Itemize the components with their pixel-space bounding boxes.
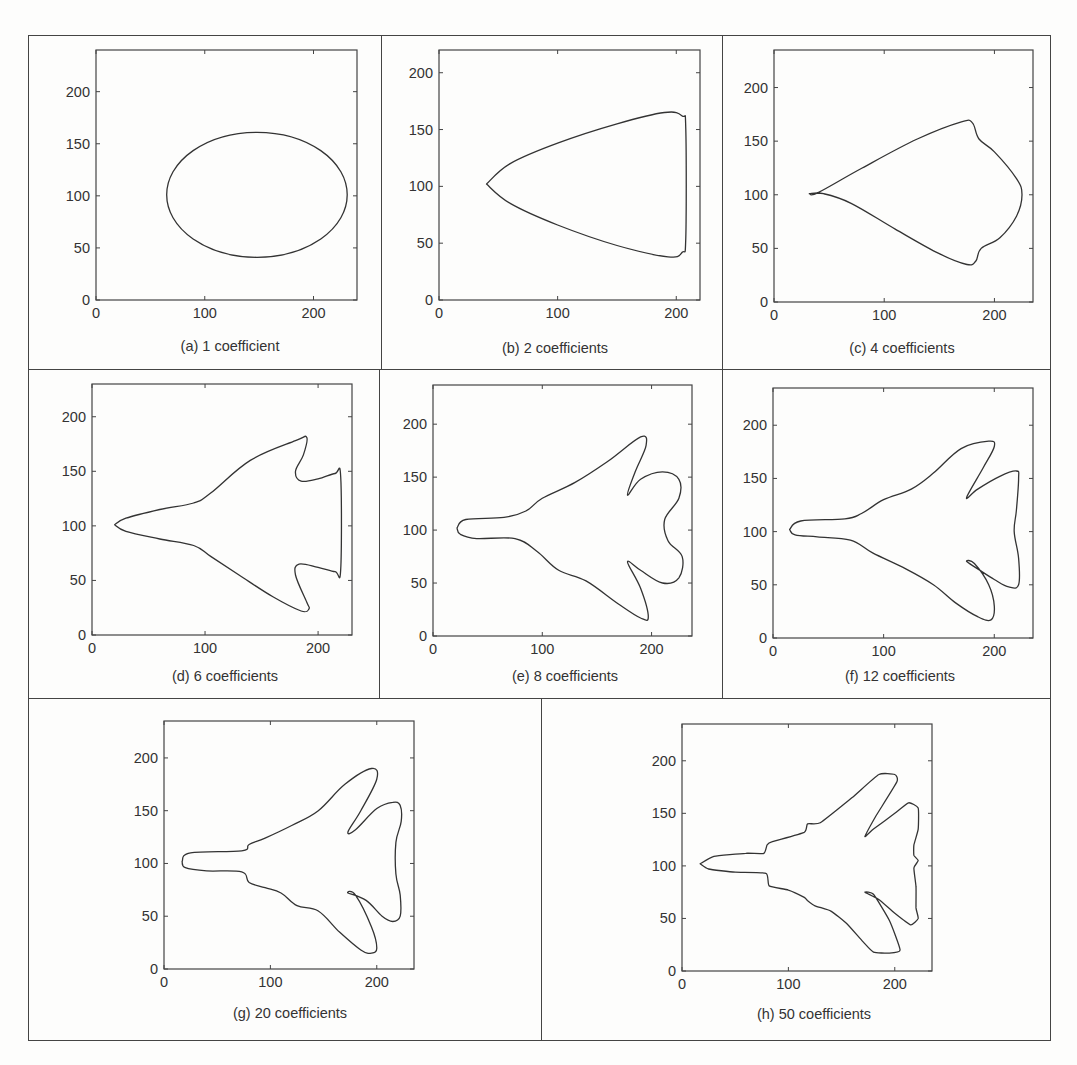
contour-aircraft [115, 436, 342, 612]
y-tick-label: 200 [66, 84, 90, 100]
y-tick-label: 100 [409, 178, 433, 194]
contour-aircraft [700, 774, 918, 954]
y-tick-label: 50 [74, 240, 90, 256]
y-tick-label: 150 [62, 463, 86, 479]
x-tick-label: 200 [982, 307, 1006, 323]
y-tick-label: 100 [66, 188, 90, 204]
y-tick-label: 150 [66, 136, 90, 152]
axes-box [774, 50, 1033, 302]
y-tick-label: 200 [62, 409, 86, 425]
col-divider-top-1 [381, 35, 382, 369]
plot-panel-f: 0100200050100150200 [773, 388, 1033, 638]
plot-panel-a: 0100200050100150200 [96, 50, 357, 300]
y-tick-label: 200 [743, 417, 767, 433]
axes-box [164, 721, 414, 969]
y-tick-label: 150 [134, 803, 158, 819]
y-tick-label: 0 [668, 963, 676, 979]
x-tick-label: 100 [530, 641, 554, 657]
x-tick-label: 100 [193, 305, 217, 321]
caption-e: (e) 8 coefficients [512, 668, 618, 684]
plot-panel-e: 0100200050100150200 [433, 385, 692, 636]
x-tick-label: 0 [92, 305, 100, 321]
x-tick-label: 100 [193, 640, 217, 656]
x-tick-label: 100 [872, 643, 896, 659]
y-tick-label: 100 [652, 858, 676, 874]
row-divider-2 [28, 698, 1051, 699]
y-tick-label: 50 [751, 577, 767, 593]
caption-h: (h) 50 coefficients [757, 1006, 871, 1022]
x-tick-label: 200 [365, 974, 389, 990]
x-tick-label: 200 [664, 305, 688, 321]
axes-box [96, 50, 357, 300]
y-tick-label: 150 [744, 133, 768, 149]
y-tick-label: 150 [403, 469, 427, 485]
col-divider-top-2 [722, 35, 723, 369]
contour-aircraft [790, 441, 1020, 621]
x-tick-label: 0 [429, 641, 437, 657]
y-tick-label: 50 [417, 235, 433, 251]
y-tick-label: 0 [150, 961, 158, 977]
plot-panel-h: 0100200050100150200 [682, 724, 932, 971]
plot-panel-g: 0100200050100150200 [164, 721, 414, 969]
caption-b: (b) 2 coefficients [502, 340, 608, 356]
x-tick-label: 200 [982, 643, 1006, 659]
caption-a: (a) 1 coefficient [181, 338, 280, 354]
plot-panel-c: 0100200050100150200 [774, 50, 1033, 302]
y-tick-label: 0 [82, 292, 90, 308]
row-divider-1 [28, 369, 1051, 370]
x-tick-label: 0 [160, 974, 168, 990]
axes-box [439, 50, 700, 300]
contour-aircraft [457, 436, 683, 620]
caption-f: (f) 12 coefficients [845, 668, 955, 684]
y-tick-label: 0 [78, 627, 86, 643]
plot-panel-b: 0100200050100150200 [439, 50, 700, 300]
contour-ellipse [167, 132, 348, 257]
y-tick-label: 150 [743, 470, 767, 486]
y-tick-label: 150 [409, 122, 433, 138]
caption-g: (g) 20 coefficients [233, 1005, 347, 1021]
y-tick-label: 100 [403, 522, 427, 538]
y-tick-label: 200 [409, 65, 433, 81]
col-divider-bottom [541, 698, 542, 1041]
x-tick-label: 100 [872, 307, 896, 323]
caption-c: (c) 4 coefficients [849, 340, 954, 356]
y-tick-label: 0 [425, 292, 433, 308]
x-tick-label: 100 [258, 974, 282, 990]
col-divider-mid-1 [379, 369, 380, 698]
x-tick-label: 100 [546, 305, 570, 321]
col-divider-mid-2 [722, 369, 723, 698]
y-tick-label: 200 [134, 750, 158, 766]
y-tick-label: 100 [744, 187, 768, 203]
y-tick-label: 50 [70, 572, 86, 588]
y-tick-label: 50 [752, 240, 768, 256]
y-tick-label: 200 [744, 80, 768, 96]
x-tick-label: 0 [769, 643, 777, 659]
y-tick-label: 50 [660, 910, 676, 926]
y-tick-label: 100 [743, 524, 767, 540]
y-tick-label: 0 [759, 630, 767, 646]
caption-d: (d) 6 coefficients [172, 668, 278, 684]
axes-box [92, 384, 352, 635]
x-tick-label: 200 [883, 976, 907, 992]
y-tick-label: 200 [403, 416, 427, 432]
y-tick-label: 100 [134, 855, 158, 871]
x-tick-label: 200 [301, 305, 325, 321]
axes-box [433, 385, 692, 636]
x-tick-label: 0 [678, 976, 686, 992]
x-tick-label: 100 [776, 976, 800, 992]
y-tick-label: 0 [760, 294, 768, 310]
plot-panel-d: 0100200050100150200 [92, 384, 352, 635]
y-tick-label: 150 [652, 805, 676, 821]
contour-aircraft [487, 112, 687, 257]
contour-aircraft [182, 768, 402, 953]
y-tick-label: 100 [62, 518, 86, 534]
y-tick-label: 50 [411, 575, 427, 591]
x-tick-label: 200 [639, 641, 663, 657]
y-tick-label: 200 [652, 753, 676, 769]
x-tick-label: 200 [306, 640, 330, 656]
x-tick-label: 0 [435, 305, 443, 321]
y-tick-label: 50 [142, 908, 158, 924]
x-tick-label: 0 [88, 640, 96, 656]
contour-aircraft [809, 120, 1022, 265]
x-tick-label: 0 [770, 307, 778, 323]
